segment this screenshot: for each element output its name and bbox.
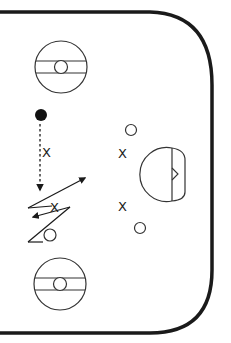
marker-o-1 (44, 229, 56, 241)
player-x-4: X (118, 199, 127, 214)
markers (44, 125, 146, 242)
player-x-3: X (118, 146, 127, 161)
faceoff-circle-top (35, 41, 87, 93)
puck (35, 109, 47, 121)
drill-diagram: X X X X (0, 0, 231, 343)
player-x-1: X (42, 145, 51, 160)
rink-boards (0, 12, 212, 333)
faceoff-circle-bottom (34, 258, 86, 310)
marker-o-2 (126, 125, 137, 136)
marker-o-3 (135, 223, 146, 234)
player-x-2: X (50, 200, 59, 215)
goal-crease (140, 148, 185, 202)
